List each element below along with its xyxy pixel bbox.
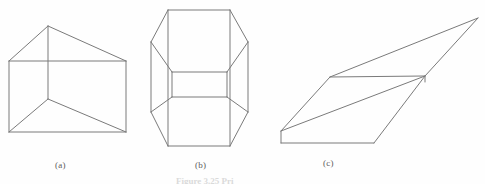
panel-label-a: (a): [55, 160, 66, 170]
panel-label-c: (c): [323, 158, 334, 168]
figure-linework: [0, 0, 485, 184]
panel-a-triangular-prism: [9, 26, 126, 132]
panel-c-oblique-parallelogram: [281, 18, 478, 143]
panel-label-b: (b): [195, 160, 206, 170]
figure-caption: Figure 3.25 Pri: [176, 176, 326, 184]
panel-b-octagonal-prism: [151, 10, 248, 146]
figure-plate: (a) (b) (c) Figure 3.25 Pri: [0, 0, 485, 184]
